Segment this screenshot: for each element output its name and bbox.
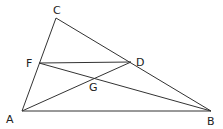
label-G: G <box>89 81 98 94</box>
segment-CB <box>56 18 211 111</box>
segment-FD <box>39 62 131 63</box>
label-F: F <box>26 57 32 70</box>
geometry-diagram: A B C D F G <box>0 0 223 129</box>
label-C: C <box>53 4 61 17</box>
segment-FB <box>39 63 211 111</box>
label-B: B <box>207 115 215 128</box>
segment-AD <box>22 62 131 111</box>
label-A: A <box>6 113 14 126</box>
label-D: D <box>136 56 144 69</box>
